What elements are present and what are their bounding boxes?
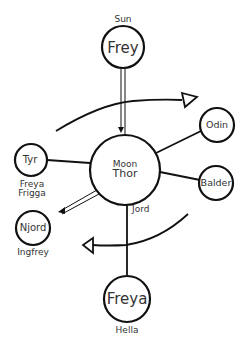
- node-njord-label: Njord: [20, 222, 47, 233]
- freya-caption: Hella: [116, 325, 139, 335]
- node-tyr-label: Tyr: [22, 154, 38, 165]
- tyr-caption-2: Frigga: [18, 188, 46, 198]
- top-arc: [56, 100, 182, 131]
- node-freya-label: Freya: [107, 290, 148, 308]
- frey-caption: Sun: [114, 14, 131, 24]
- node-frey-label: Frey: [107, 39, 139, 57]
- relationship-diagram: Jord Sun Frey Moon Thor Tyr Freya Frigga…: [0, 0, 248, 349]
- edge-thor-odin: [156, 131, 201, 153]
- edge-thor-njord: [58, 190, 99, 214]
- edge-thor-balder: [160, 172, 200, 180]
- node-odin-label: Odin: [206, 119, 228, 130]
- bottom-arc: [92, 214, 188, 246]
- node-balder-label: Balder: [201, 177, 232, 188]
- edge-label-jord: Jord: [131, 204, 149, 214]
- bottom-arc-arrowhead-icon: [83, 238, 93, 253]
- njord-caption: Ingfrey: [17, 247, 49, 257]
- node-thor-label: Thor: [112, 167, 138, 180]
- edge-thor-tyr: [47, 160, 90, 163]
- top-arc-arrowhead-icon: [182, 93, 197, 107]
